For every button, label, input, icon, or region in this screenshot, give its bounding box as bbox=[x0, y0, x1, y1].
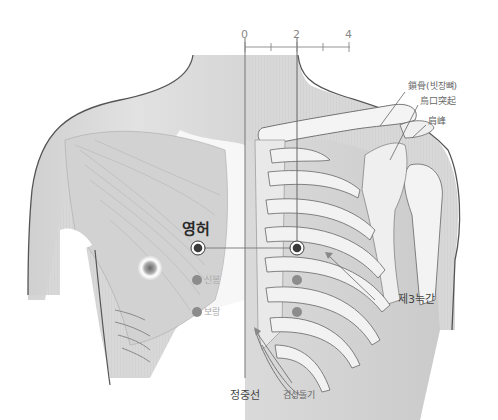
yeongheo-point-right bbox=[290, 241, 304, 255]
label-yeongheo: 영허 bbox=[182, 222, 210, 237]
acupoint-diagram: 0 2 4 영허 신봉 보랑 鎖骨(빗장뼈) 烏口突起 肩峰 제3늑간 정중선 … bbox=[0, 0, 498, 420]
scale-tick-0: 0 bbox=[241, 28, 248, 41]
anatomy-illustration bbox=[0, 0, 498, 420]
label-midline: 정중선 bbox=[230, 390, 260, 401]
label-clavicle: 鎖骨(빗장뼈) bbox=[408, 82, 457, 91]
label-third-intercostal: 제3늑간 bbox=[398, 294, 435, 305]
label-xiphoid: 검상돌기 bbox=[283, 391, 315, 400]
scale-tick-2: 2 bbox=[293, 28, 300, 41]
yeongheo-point-left bbox=[191, 241, 205, 255]
borang-point-left bbox=[192, 307, 202, 317]
sinbong-point-left bbox=[192, 275, 202, 285]
sinbong-point-right bbox=[292, 275, 302, 285]
label-coracoid: 烏口突起 bbox=[420, 97, 456, 106]
label-borang: 보랑 bbox=[204, 308, 220, 317]
nipple-left bbox=[138, 256, 162, 280]
scale-tick-4: 4 bbox=[345, 28, 352, 41]
borang-point-right bbox=[292, 307, 302, 317]
label-acromion: 肩峰 bbox=[428, 117, 446, 126]
label-sinbong: 신봉 bbox=[204, 276, 220, 285]
